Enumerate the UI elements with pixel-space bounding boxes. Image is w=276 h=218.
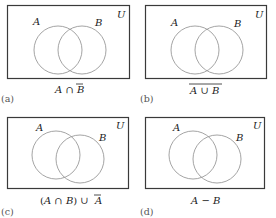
panel-id: (c) bbox=[1, 206, 14, 217]
panel-b: A B U A ∪ B (b) bbox=[140, 6, 267, 105]
universe-frame bbox=[8, 118, 129, 189]
caption-term-a-complement: A bbox=[94, 195, 102, 206]
set-b-label: B bbox=[94, 17, 102, 28]
universe-label: U bbox=[253, 120, 262, 131]
panel-a: A B U A ∩ B (a) bbox=[1, 6, 130, 105]
caption-term-a: A bbox=[43, 195, 51, 206]
universe-frame bbox=[8, 6, 130, 79]
caption: (A ∩ B) ∪ A bbox=[40, 195, 102, 206]
venn-diagram-figure: A B U A ∩ B (a) A B U A ∪ B (b) A B U (A… bbox=[0, 0, 276, 218]
universe-frame bbox=[146, 118, 265, 189]
set-a-label: A bbox=[35, 122, 43, 133]
universe-label: U bbox=[255, 9, 264, 20]
panel-id: (b) bbox=[140, 93, 154, 104]
panel-c: A B U (A ∩ B) ∪ A (c) bbox=[1, 118, 129, 218]
panel-id: (d) bbox=[140, 206, 154, 217]
caption-term-b: B bbox=[76, 84, 84, 95]
set-b-label: B bbox=[98, 132, 106, 143]
universe-label: U bbox=[116, 120, 125, 131]
universe-label: U bbox=[117, 9, 126, 20]
set-a-label: A bbox=[32, 16, 40, 27]
set-b-label: B bbox=[235, 132, 243, 143]
caption-term-b: B bbox=[211, 85, 219, 96]
caption-operator: ∩ bbox=[51, 195, 66, 206]
caption-term-a: A bbox=[190, 195, 198, 206]
panel-d: A B U A − B (d) bbox=[140, 118, 265, 218]
caption-operator: ∩ bbox=[62, 84, 77, 95]
caption: A ∩ B bbox=[54, 84, 84, 95]
caption-operator: − bbox=[198, 195, 213, 206]
caption: A − B bbox=[190, 195, 220, 206]
caption-term-b: B bbox=[65, 195, 73, 206]
set-a-label: A bbox=[170, 17, 178, 28]
caption-term-a: A bbox=[54, 84, 62, 95]
caption-term-a: A bbox=[189, 85, 197, 96]
set-b-label: B bbox=[233, 18, 241, 29]
caption: A ∪ B bbox=[189, 85, 219, 96]
caption-operator-union: ) ∪ bbox=[73, 195, 92, 206]
universe-frame bbox=[146, 6, 267, 79]
panel-id: (a) bbox=[1, 93, 14, 104]
caption-term-b: B bbox=[212, 195, 220, 206]
set-a-label: A bbox=[172, 122, 180, 133]
caption-operator: ∪ bbox=[197, 85, 212, 96]
